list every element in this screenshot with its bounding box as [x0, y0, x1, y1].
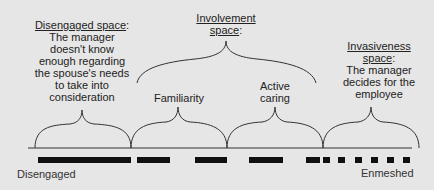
axis-right-label: Enmeshed: [361, 167, 414, 179]
active-caring-label: Active caring: [250, 80, 300, 104]
invasiveness-description-line: The manager: [334, 64, 424, 76]
dash-solid: [38, 157, 131, 163]
dash-short: [371, 157, 378, 163]
involvement-space-label: Involvement space:: [186, 12, 266, 36]
brace-active-caring: [227, 107, 323, 148]
dash-short: [338, 157, 345, 163]
dash-short: [323, 157, 330, 163]
invasiveness-space-title: Invasiveness: [347, 40, 411, 52]
disengaged-description-line: the spouse's needs: [30, 67, 134, 79]
dash-long: [195, 157, 227, 163]
dash-short: [306, 157, 320, 163]
continuum-dash-scale: [38, 157, 410, 163]
disengaged-description-line: enough regarding: [30, 55, 134, 67]
brace-disengaged: [35, 110, 131, 148]
disengaged-description-line: to take into: [30, 79, 134, 91]
disengaged-description-line: The manager: [30, 31, 134, 43]
brace-familiarity: [131, 107, 227, 148]
brace-invasiveness: [323, 107, 419, 148]
axis-left-label: Disengaged: [17, 168, 76, 180]
familiarity-label: Familiarity: [148, 92, 210, 104]
dash-short: [355, 157, 362, 163]
disengaged-space-label: Disengaged space: The manager doesn't kn…: [30, 19, 134, 103]
involvement-space-title: Involvement: [196, 12, 255, 24]
invasiveness-description-line: decides for the: [334, 76, 424, 88]
dash-long: [249, 157, 283, 163]
dash-short: [387, 157, 394, 163]
invasiveness-description-line: employee: [334, 88, 424, 100]
dash-short: [403, 157, 410, 163]
disengaged-description-line: doesn't know: [30, 43, 134, 55]
invasiveness-space-label: Invasiveness space: The manager decides …: [334, 40, 424, 100]
disengaged-description-line: consideration: [30, 91, 134, 103]
involvement-continuum-diagram: Disengaged space: The manager doesn't kn…: [0, 0, 434, 190]
brace-involvement: [137, 41, 316, 83]
disengaged-space-title: Disengaged space: [35, 19, 126, 31]
dash-long: [137, 157, 170, 163]
